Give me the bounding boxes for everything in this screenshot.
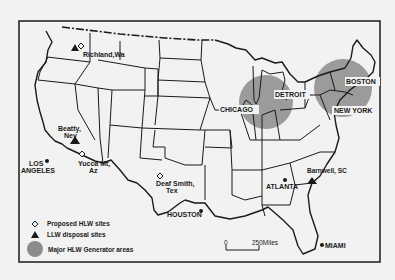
scale-end: 250Miles [252, 239, 279, 246]
label-los: LOS [29, 160, 44, 167]
label-detroit: DETROIT [275, 91, 306, 98]
label-nev: Nev [64, 132, 77, 139]
generator-area-chicago-detroit [239, 75, 293, 129]
legend-label-llw: LLW disposal sites [47, 231, 106, 239]
miami-dot [320, 243, 324, 247]
atlanta-dot [283, 178, 287, 182]
label-boston: BOSTON [346, 78, 376, 85]
legend-label-proposed: Proposed HLW sites [47, 220, 110, 228]
us-map: Richland,Wa Beatty, Nev Yucca Mt, Az Dea… [0, 0, 395, 280]
label-chicago: CHICAGO [220, 106, 254, 113]
legend-circle-icon [27, 241, 43, 257]
label-az: Az [89, 167, 98, 174]
label-richland: Richland,Wa [83, 51, 125, 59]
label-newyork: NEW YORK [334, 107, 372, 114]
losangeles-dot [45, 159, 49, 163]
label-barnwell: Barnwell, SC [307, 167, 347, 175]
label-tex: Tex [166, 187, 178, 194]
label-miami: MIAMI [325, 242, 346, 249]
label-houston: HOUSTON [167, 211, 202, 218]
legend-label-generator: Major HLW Generator areas [48, 246, 134, 254]
label-angeles: ANGELES [21, 167, 55, 174]
scale-start: 0 [224, 239, 228, 246]
label-atlanta: ATLANTA [266, 183, 298, 190]
